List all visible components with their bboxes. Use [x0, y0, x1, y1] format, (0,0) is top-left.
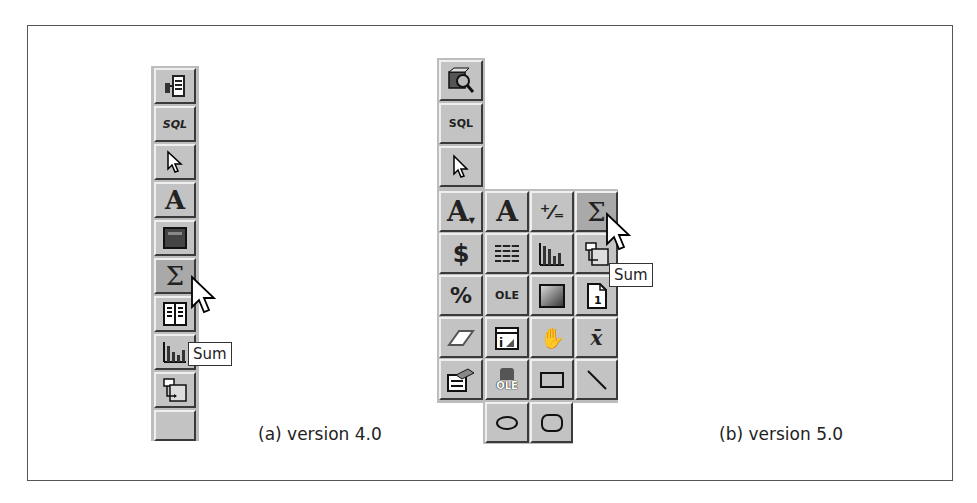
- ellipse-button[interactable]: [485, 402, 529, 443]
- label-button-v5[interactable]: A: [485, 191, 529, 232]
- sql-button-v5[interactable]: SQL: [439, 103, 483, 144]
- calendar-button[interactable]: i: [485, 317, 529, 358]
- text-box-button[interactable]: [154, 220, 196, 256]
- toolbox-v4: SQL A Σ: [151, 66, 199, 441]
- subreport-button[interactable]: [154, 372, 196, 408]
- eraser-icon: [447, 327, 475, 349]
- bar-chart-icon: [162, 340, 188, 364]
- bar-chart-icon: [538, 241, 566, 267]
- currency-icon: $: [453, 240, 470, 268]
- pointer-icon: [165, 150, 185, 174]
- currency-button[interactable]: $: [439, 233, 483, 274]
- tooltip-sum-v5: Sum: [609, 263, 653, 287]
- columns-icon: [162, 301, 188, 327]
- font-dropdown-button[interactable]: A▼: [439, 191, 483, 232]
- ole-icon: OLE: [495, 289, 519, 302]
- text-dropdown-icon: A: [447, 198, 469, 226]
- text-box-icon: [162, 226, 188, 250]
- mouse-cursor-icon: [190, 275, 216, 317]
- tooltip-sum-v4: Sum: [188, 342, 232, 366]
- zoom-button[interactable]: [439, 60, 483, 101]
- picture-icon: [538, 283, 566, 309]
- ole-database-button[interactable]: OLE: [485, 359, 529, 400]
- columns-button-v5[interactable]: [485, 233, 529, 274]
- field-list-button[interactable]: [154, 68, 196, 104]
- caption-a: (a) version 4.0: [258, 424, 382, 444]
- average-icon: x̄: [591, 328, 603, 348]
- caption-b: (b) version 5.0: [719, 424, 843, 444]
- rounded-rectangle-icon: [539, 412, 565, 434]
- svg-text:1: 1: [594, 294, 602, 307]
- pointer-button-v5[interactable]: [439, 146, 483, 187]
- svg-text:i: i: [499, 336, 503, 350]
- chart-button-v5[interactable]: [530, 233, 574, 274]
- page-number-icon: 1: [586, 282, 608, 310]
- text-icon: A: [496, 198, 518, 226]
- pointer-button[interactable]: [154, 144, 196, 180]
- form-icon: [446, 367, 476, 393]
- average-button[interactable]: x̄: [575, 317, 618, 358]
- eraser-button[interactable]: [439, 317, 483, 358]
- hand-icon: ✋: [540, 326, 565, 350]
- pointer-icon: [451, 154, 471, 180]
- rectangle-button[interactable]: [530, 359, 574, 400]
- text-icon: A: [165, 187, 185, 213]
- picture-button[interactable]: [530, 275, 574, 316]
- magnifier-icon: [446, 67, 476, 95]
- sql-icon: SQL: [449, 117, 473, 130]
- sum-icon: Σ: [166, 263, 184, 289]
- sum-icon: Σ: [587, 199, 605, 225]
- sql-button[interactable]: SQL: [154, 106, 196, 142]
- rectangle-icon: [539, 370, 565, 390]
- lines-icon: [493, 243, 521, 265]
- form-button[interactable]: [439, 359, 483, 400]
- line-icon: [584, 368, 610, 392]
- rounded-rectangle-button[interactable]: [530, 402, 573, 443]
- plus-minus-button[interactable]: ⁺⁄₌: [530, 191, 574, 232]
- ellipse-icon: [494, 413, 520, 433]
- mouse-cursor-icon: [605, 212, 631, 254]
- plus-minus-icon: ⁺⁄₌: [540, 200, 564, 224]
- ole-database-label: OLE: [496, 380, 518, 391]
- more-controls-button[interactable]: [154, 410, 196, 441]
- sql-icon: SQL: [163, 118, 187, 131]
- percent-button[interactable]: %: [439, 275, 483, 316]
- calendar-icon: i: [494, 325, 520, 351]
- ole-database-icon: [500, 368, 514, 380]
- label-button[interactable]: A: [154, 182, 196, 218]
- subreport-icon: [162, 377, 188, 403]
- percent-icon: %: [450, 283, 472, 308]
- ole-button[interactable]: OLE: [485, 275, 529, 316]
- hand-button[interactable]: ✋: [530, 317, 574, 358]
- field-list-icon: [162, 73, 188, 99]
- line-button[interactable]: [575, 359, 618, 400]
